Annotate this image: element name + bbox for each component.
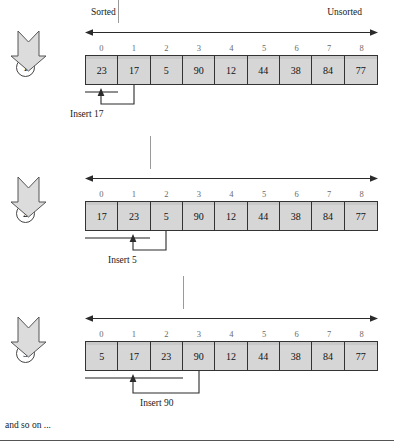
index-label: 6 <box>280 328 313 340</box>
array-cell: 5 <box>151 202 183 230</box>
array-row-1: 23 17 5 90 12 44 38 84 77 <box>85 55 378 85</box>
array-cell: 17 <box>118 342 150 370</box>
array-cell-value: 5 <box>99 351 104 362</box>
sorted-unsorted-band-1: Sorted Unsorted <box>85 6 378 40</box>
array-cell: 17 <box>86 202 118 230</box>
array-cell-value: 44 <box>258 65 268 76</box>
array-cell: 44 <box>248 56 280 84</box>
and-so-on-label: and so on ... <box>5 419 51 431</box>
insert-connector-3: Insert 90 <box>0 371 394 417</box>
index-label: 5 <box>248 42 281 54</box>
array-cell-value: 38 <box>291 351 301 362</box>
index-label: 4 <box>215 42 248 54</box>
array-cell-value: 12 <box>226 351 236 362</box>
unsorted-label-1: Unsorted <box>327 6 362 18</box>
index-label: 8 <box>345 328 378 340</box>
index-label: 1 <box>118 188 151 200</box>
array-row-2: 17 23 5 90 12 44 38 84 77 <box>85 201 378 231</box>
insert-connector-2: Insert 5 <box>0 231 394 277</box>
index-label: 0 <box>85 42 118 54</box>
array-cell-value: 17 <box>97 211 107 222</box>
array-cell-value: 77 <box>356 65 366 76</box>
range-arrow-1 <box>85 28 378 37</box>
array-cell-value: 5 <box>164 211 169 222</box>
index-label: 4 <box>215 188 248 200</box>
array-cell-value: 17 <box>129 65 139 76</box>
array-cell-value: 90 <box>194 351 204 362</box>
array-cell-value: 5 <box>164 65 169 76</box>
insert-label-1: Insert 17 <box>70 108 104 120</box>
array-cell-value: 90 <box>194 65 204 76</box>
sorted-divider-2 <box>150 136 151 169</box>
array-cell-value: 12 <box>226 65 236 76</box>
array-cell: 17 <box>118 56 150 84</box>
insert-connector-1: Insert 17 <box>0 85 394 131</box>
array-cell: 90 <box>183 56 215 84</box>
array-cell-value: 44 <box>258 211 268 222</box>
index-label: 1 <box>118 328 151 340</box>
array-cell-value: 77 <box>356 351 366 362</box>
flow-down-arrow-3 <box>10 314 47 359</box>
array-cell: 38 <box>280 342 312 370</box>
array-cell: 77 <box>345 202 377 230</box>
array-cell: 23 <box>151 342 183 370</box>
index-label: 8 <box>345 188 378 200</box>
array-cell: 12 <box>215 342 247 370</box>
array-cell-value: 23 <box>161 351 171 362</box>
insert-label-3: Insert 90 <box>140 397 174 409</box>
array-cell: 38 <box>280 202 312 230</box>
index-label: 2 <box>150 42 183 54</box>
array-cell: 23 <box>86 56 118 84</box>
array-cell: 90 <box>183 202 215 230</box>
sorted-divider-3 <box>183 276 184 309</box>
index-label: 8 <box>345 42 378 54</box>
range-arrow-2 <box>85 174 378 183</box>
array-cell: 77 <box>345 56 377 84</box>
index-label: 3 <box>183 328 216 340</box>
array-cell: 84 <box>312 342 344 370</box>
array-cell: 5 <box>86 342 118 370</box>
insertion-sort-figure: Sorted Unsorted 1 0 1 2 3 4 5 6 7 8 23 1… <box>0 0 394 444</box>
sorted-unsorted-band-2 <box>85 152 378 186</box>
flow-down-arrow-1 <box>10 28 47 73</box>
array-cell: 12 <box>215 56 247 84</box>
index-label: 5 <box>248 328 281 340</box>
array-cell-value: 12 <box>226 211 236 222</box>
index-label: 7 <box>313 42 346 54</box>
array-cell: 77 <box>345 342 377 370</box>
insert-arrow-3 <box>0 371 394 407</box>
array-row-3: 5 17 23 90 12 44 38 84 77 <box>85 341 378 371</box>
insert-arrow-1 <box>0 85 394 121</box>
index-label: 3 <box>183 42 216 54</box>
array-cell-value: 23 <box>129 211 139 222</box>
array-cell: 90 <box>183 342 215 370</box>
array-cell-value: 84 <box>323 351 333 362</box>
bottom-divider <box>0 440 394 441</box>
index-row-3: 0 1 2 3 4 5 6 7 8 <box>85 328 378 340</box>
array-cell: 12 <box>215 202 247 230</box>
array-cell: 44 <box>248 202 280 230</box>
sorted-unsorted-band-3 <box>85 292 378 326</box>
index-label: 5 <box>248 188 281 200</box>
array-cell: 38 <box>280 56 312 84</box>
index-row-1: 0 1 2 3 4 5 6 7 8 <box>85 42 378 54</box>
index-label: 0 <box>85 188 118 200</box>
array-cell: 84 <box>312 202 344 230</box>
array-cell-value: 23 <box>97 65 107 76</box>
index-label: 2 <box>150 188 183 200</box>
array-cell: 84 <box>312 56 344 84</box>
array-cell-value: 84 <box>323 211 333 222</box>
range-arrow-3 <box>85 314 378 323</box>
index-label: 7 <box>313 188 346 200</box>
flow-down-arrow-2 <box>10 174 47 219</box>
index-label: 4 <box>215 328 248 340</box>
array-cell: 5 <box>151 56 183 84</box>
array-cell-value: 38 <box>291 211 301 222</box>
array-cell-value: 38 <box>291 65 301 76</box>
array-cell-value: 17 <box>129 351 139 362</box>
index-row-2: 0 1 2 3 4 5 6 7 8 <box>85 188 378 200</box>
index-label: 6 <box>280 42 313 54</box>
index-label: 3 <box>183 188 216 200</box>
index-label: 2 <box>150 328 183 340</box>
index-label: 7 <box>313 328 346 340</box>
